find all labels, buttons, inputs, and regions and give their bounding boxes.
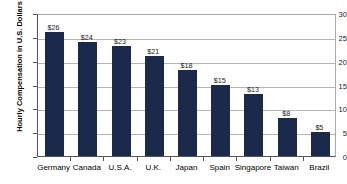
bar	[112, 46, 131, 156]
bar	[278, 118, 297, 156]
bar	[145, 56, 164, 156]
bar-value-label: $26	[37, 23, 71, 32]
bar-value-label: $8	[269, 109, 303, 118]
bar-value-label: $24	[70, 33, 104, 42]
x-axis-tick	[203, 157, 204, 161]
bar-value-label: $15	[203, 76, 237, 85]
x-axis-tick-label: Brazil	[294, 163, 344, 172]
bar	[45, 32, 64, 156]
x-axis-tick	[70, 157, 71, 161]
x-axis-tick	[270, 157, 271, 161]
bar-value-label: $21	[136, 47, 170, 56]
bar	[78, 42, 97, 156]
y-axis-title: Hourly Compensation in U.S. Dollars	[15, 0, 24, 142]
x-axis-tick	[236, 157, 237, 161]
x-axis-tick	[137, 157, 138, 161]
x-axis-tick	[303, 157, 304, 161]
y-axis-tick	[33, 157, 37, 158]
bar-value-label: $23	[103, 37, 137, 46]
bar-value-label: $18	[170, 61, 204, 70]
bar	[311, 132, 330, 156]
bar-value-label: $5	[302, 123, 336, 132]
bar	[244, 94, 263, 156]
bar	[211, 85, 230, 157]
x-axis-tick	[170, 157, 171, 161]
bar-chart: Hourly Compensation in U.S. Dollars 0510…	[0, 0, 347, 184]
bar-value-label: $13	[236, 85, 270, 94]
x-axis-tick	[103, 157, 104, 161]
bar	[178, 70, 197, 156]
